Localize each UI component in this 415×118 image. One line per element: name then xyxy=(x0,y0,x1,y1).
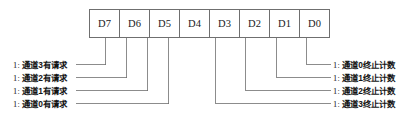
register-bit-d0: D0 xyxy=(299,9,330,38)
register-bit-d5: D5 xyxy=(149,9,180,38)
right-annotation-text: 通道3终止计数 xyxy=(342,99,394,109)
register-bit-label: D1 xyxy=(278,18,291,29)
leader-d3 xyxy=(216,38,332,104)
right-annotation-prefix: 1: xyxy=(333,87,340,96)
register-bit-label: D0 xyxy=(308,18,321,29)
register-bit-d6: D6 xyxy=(119,9,150,38)
leader-d0 xyxy=(307,38,332,65)
left-annotation-prefix: 1: xyxy=(13,61,20,70)
register-bit-label: D4 xyxy=(188,18,201,29)
right-annotation-prefix: 1: xyxy=(333,74,340,83)
left-annotation-text: 通道0有请求 xyxy=(22,99,66,109)
right-annotation-prefix: 1: xyxy=(333,61,340,70)
left-annotation-text: 通道3有请求 xyxy=(22,60,66,70)
left-annotation-d4: 1: 通道0有请求 xyxy=(13,99,67,110)
left-annotation-prefix: 1: xyxy=(13,100,20,109)
left-annotation-text: 通道2有请求 xyxy=(22,73,66,83)
register-bit-label: D2 xyxy=(248,18,261,29)
register-bit-d7: D7 xyxy=(89,9,120,38)
leader-d6 xyxy=(76,38,127,78)
left-annotation-prefix: 1: xyxy=(13,74,20,83)
right-annotation-d2: 1: 通道2终止计数 xyxy=(333,86,394,97)
register-bit-d4: D4 xyxy=(179,9,210,38)
left-annotation-text: 通道1有请求 xyxy=(22,86,66,96)
right-annotation-d0: 1: 通道0终止计数 xyxy=(333,60,394,71)
left-annotation-d6: 1: 通道2有请求 xyxy=(13,73,67,84)
right-annotation-text: 通道1终止计数 xyxy=(342,73,394,83)
right-annotation-prefix: 1: xyxy=(333,100,340,109)
register-bit-label: D3 xyxy=(218,18,231,29)
register-bit-d3: D3 xyxy=(209,9,240,38)
leader-d4 xyxy=(76,38,169,104)
right-annotation-text: 通道2终止计数 xyxy=(342,86,394,96)
right-annotation-d3: 1: 通道3终止计数 xyxy=(333,99,394,110)
register-bit-d1: D1 xyxy=(269,9,300,38)
left-annotation-d5: 1: 通道1有请求 xyxy=(13,86,67,97)
right-annotation-text: 通道0终止计数 xyxy=(342,60,394,70)
register-bit-label: D5 xyxy=(158,18,171,29)
leader-d1 xyxy=(277,38,332,78)
left-annotation-d7: 1: 通道3有请求 xyxy=(13,60,67,71)
left-annotation-prefix: 1: xyxy=(13,87,20,96)
register-bit-label: D7 xyxy=(98,18,111,29)
right-annotation-d1: 1: 通道1终止计数 xyxy=(333,73,394,84)
leader-d7 xyxy=(76,38,106,65)
register-bitfield-diagram: D7 D6 D5 D4 D3 D2 D1 D0 1: 通道3有请求 1: 通道2… xyxy=(0,0,415,118)
register-bit-label: D6 xyxy=(128,18,141,29)
register-bit-d2: D2 xyxy=(239,9,270,38)
